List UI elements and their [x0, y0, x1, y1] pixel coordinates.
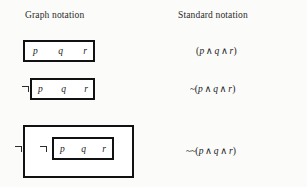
- negation-prefix: ~~: [186, 146, 195, 156]
- conjunction-icon: ∧: [219, 146, 229, 156]
- negation-hook-icon-outer: [15, 146, 22, 152]
- notation-row: p q r ~~(p∧q∧r): [0, 119, 307, 181]
- conjunction-icon: ∧: [204, 46, 214, 56]
- atom-p: p: [60, 144, 65, 154]
- atom-r: r: [84, 84, 88, 94]
- column-header-graph-notation: Graph notation: [25, 10, 84, 20]
- atom-q: q: [61, 84, 66, 94]
- right-paren: ): [234, 46, 237, 56]
- negation-hook-icon-inner: [40, 146, 47, 152]
- notation-row: p q r ~(p∧q∧r): [0, 74, 307, 110]
- formula-var-q: q: [214, 146, 219, 156]
- notation-row: p q r (p∧q∧r): [0, 34, 307, 70]
- standard-notation-formula: ~~(p∧q∧r): [186, 145, 236, 156]
- standard-notation-formula: ~(p∧q∧r): [190, 83, 236, 94]
- logic-notation-figure: Graph notation Standard notation p q r (…: [0, 0, 307, 187]
- conjunction-icon: ∧: [203, 84, 213, 94]
- right-paren: ): [232, 84, 235, 94]
- atom-r: r: [102, 144, 106, 154]
- atom-group: p q r: [60, 142, 106, 156]
- conjunction-icon: ∧: [218, 84, 228, 94]
- standard-notation-formula: (p∧q∧r): [196, 45, 237, 56]
- atom-r: r: [83, 46, 87, 56]
- atom-group: p q r: [33, 44, 87, 58]
- negation-hook-icon: [22, 86, 29, 92]
- conjunction-icon: ∧: [219, 46, 229, 56]
- conjunction-icon: ∧: [204, 146, 214, 156]
- formula-var-p: p: [199, 146, 204, 156]
- column-header-standard-notation: Standard notation: [178, 10, 248, 20]
- atom-p: p: [33, 46, 38, 56]
- atom-group: p q r: [38, 82, 88, 96]
- atom-q: q: [81, 144, 86, 154]
- atom-q: q: [58, 46, 63, 56]
- atom-p: p: [38, 84, 43, 94]
- right-paren: ): [233, 146, 236, 156]
